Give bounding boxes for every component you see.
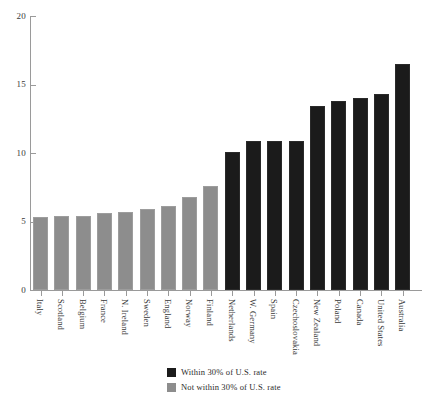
bar [310, 106, 325, 290]
x-axis-tick [83, 291, 84, 296]
x-axis-tick [360, 291, 361, 296]
x-axis-tick [296, 291, 297, 296]
x-axis-tick [381, 291, 382, 296]
plot-area [30, 16, 422, 290]
bar [225, 152, 240, 290]
x-axis-tick-label: England [163, 299, 172, 328]
x-axis-tick-label: Finland [205, 299, 214, 326]
chart-legend: Within 30% of U.S. rateNot within 30% of… [167, 365, 281, 395]
x-axis-tick [403, 291, 404, 296]
x-axis-line [30, 290, 422, 291]
y-axis-tick [31, 290, 36, 291]
x-axis-tick-label: Spain [269, 299, 278, 319]
x-axis-tick-label: Norway [184, 299, 193, 327]
y-axis-tick-label: 15 [0, 80, 26, 89]
x-axis-tick-label: New Zealand [312, 299, 321, 346]
bar [246, 141, 261, 290]
x-axis-tick [211, 291, 212, 296]
legend-label: Not within 30% of U.S. rate [181, 383, 281, 392]
bar [289, 141, 304, 290]
bar [118, 212, 133, 290]
x-axis-tick-label: Belgium [78, 299, 87, 329]
x-axis-tick [317, 291, 318, 296]
x-axis-tick-label: W. Germany [248, 299, 257, 344]
x-axis-tick-label: Sweden [142, 299, 151, 327]
bar-chart: 05101520 ItalyScotlandBelgiumFranceN. Ir… [0, 0, 432, 403]
bar [203, 186, 218, 290]
x-axis-tick [62, 291, 63, 296]
bar [161, 206, 176, 290]
bar [33, 217, 48, 290]
x-axis-tick-label: Czechoslovakia [291, 299, 300, 355]
legend-swatch [167, 368, 176, 377]
y-axis-tick-label-text: 10 [2, 149, 26, 158]
y-axis-tick-label-text: 20 [2, 12, 26, 21]
x-axis-tick [126, 291, 127, 296]
x-axis-tick-label: France [99, 299, 108, 323]
legend-label: Within 30% of U.S. rate [181, 368, 267, 377]
y-axis-tick-label: 5 [0, 217, 26, 226]
x-axis-tick-label: Netherlands [227, 299, 236, 342]
x-axis-tick [254, 291, 255, 296]
bar [182, 197, 197, 290]
bar [140, 209, 155, 290]
x-axis-tick-label: Poland [333, 299, 342, 324]
bar [395, 64, 410, 290]
x-axis-tick [190, 291, 191, 296]
x-axis-tick [275, 291, 276, 296]
bar [76, 216, 91, 290]
x-axis-tick-label: Canada [355, 299, 364, 325]
bar [54, 216, 69, 290]
y-axis-tick-label-text: 0 [2, 286, 26, 295]
bar [331, 101, 346, 290]
x-axis-tick [41, 291, 42, 296]
x-axis-tick-label: United States [376, 299, 385, 347]
x-axis-tick [147, 291, 148, 296]
bar [97, 213, 112, 290]
y-axis-tick-label-text: 15 [2, 80, 26, 89]
x-axis-tick-label: Italy [35, 299, 44, 315]
y-axis-tick-label: 10 [0, 149, 26, 158]
x-axis-tick [104, 291, 105, 296]
x-axis-tick-label: Australia [397, 299, 406, 332]
legend-item: Within 30% of U.S. rate [167, 365, 281, 380]
x-axis-tick [168, 291, 169, 296]
bar [374, 94, 389, 290]
x-axis-tick-label: Scotland [56, 299, 65, 330]
bar [353, 98, 368, 290]
bar [267, 141, 282, 290]
y-axis-tick-label: 0 [0, 286, 26, 295]
y-axis-tick-label: 20 [0, 12, 26, 21]
y-axis-tick-label-text: 5 [2, 217, 26, 226]
legend-swatch [167, 383, 176, 392]
x-axis-tick [339, 291, 340, 296]
legend-item: Not within 30% of U.S. rate [167, 380, 281, 395]
x-axis-tick-label: N. Ireland [120, 299, 129, 335]
x-axis-tick [232, 291, 233, 296]
